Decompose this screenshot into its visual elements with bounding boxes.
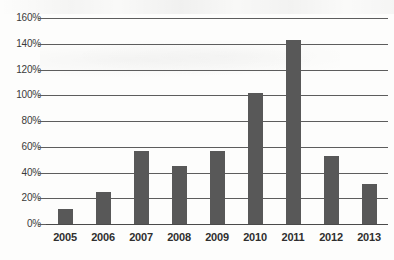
gridline [46,70,388,71]
x-axis-category-label: 2013 [357,231,381,243]
gridline [46,44,388,45]
gridline [46,18,388,19]
plot-area [46,18,388,224]
x-axis-category-label: 2005 [53,231,77,243]
x-axis-category-label: 2008 [167,231,191,243]
x-axis-category-label: 2011 [281,231,304,243]
bar [210,151,225,224]
bar [324,156,339,224]
x-axis-category-label: 2010 [243,231,267,243]
gridline [46,121,388,122]
x-axis-category-label: 2007 [129,231,153,243]
x-axis-category-label: 2012 [319,231,343,243]
x-axis-category-label: 2009 [205,231,229,243]
bar [172,166,187,224]
x-axis-category-label: 2006 [91,231,115,243]
bar [58,209,73,224]
gridline [46,95,388,96]
bar-chart: 0%20%40%60%80%100%120%140%160% 200520062… [0,0,394,260]
gridline [46,147,388,148]
y-axis: 0%20%40%60%80%100%120%140%160% [0,0,44,260]
x-axis: 200520062007200820092010201120122013 [46,228,388,252]
bar [96,192,111,224]
scan-artifact-top [0,0,394,14]
bar [286,40,301,224]
bar [134,151,149,224]
bar [362,184,377,224]
axis-baseline [46,224,388,225]
bar [248,93,263,224]
